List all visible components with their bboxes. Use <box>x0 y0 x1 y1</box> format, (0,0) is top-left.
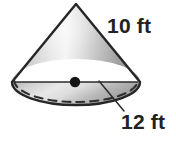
cone-diagram: 10 ft 12 ft <box>0 0 176 146</box>
slant-height-label: 10 ft <box>107 15 151 36</box>
center-dot-icon <box>70 77 80 87</box>
diameter-label: 12 ft <box>121 111 165 132</box>
